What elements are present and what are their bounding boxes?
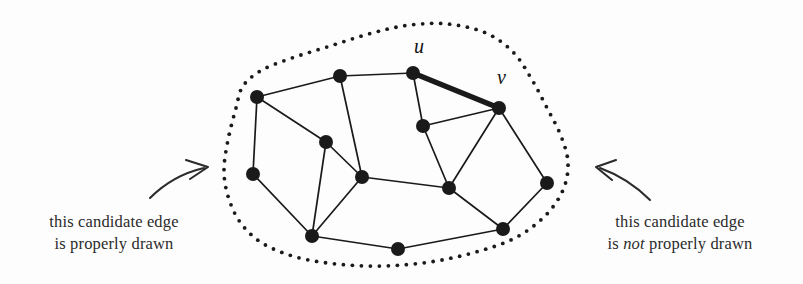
graph-edge	[340, 73, 413, 76]
graph-node	[492, 101, 506, 115]
boundary-dot	[222, 168, 226, 172]
boundary-dot	[465, 25, 469, 29]
boundary-dot	[560, 190, 564, 194]
boundary-dot	[505, 45, 509, 49]
boundary-dot	[297, 256, 301, 260]
boundary-dot	[527, 73, 531, 77]
boundary-dot	[540, 97, 544, 101]
boundary-dot	[525, 229, 529, 233]
boundary-dot	[342, 40, 346, 44]
boundary-dot	[565, 154, 569, 158]
boundary-dot	[394, 25, 398, 29]
caption-properly-drawn: this candidate edge is properly drawn	[16, 211, 212, 255]
boundary-dot	[350, 263, 354, 267]
boundary-dot	[229, 203, 233, 207]
boundary-dot	[474, 28, 478, 32]
boundary-dot	[264, 243, 268, 247]
boundary-dot	[299, 53, 303, 57]
graph-node	[391, 242, 405, 256]
boundary-dot	[475, 250, 479, 254]
boundary-dot	[226, 194, 230, 198]
graph-node	[246, 167, 260, 181]
boundary-dot	[224, 150, 228, 154]
graph-nodes-group	[246, 66, 554, 256]
graph-edge	[257, 76, 340, 97]
boundary-dot	[288, 253, 292, 257]
boundary-dot	[223, 177, 227, 181]
arrow-right-icon	[596, 160, 650, 200]
graph-edge-highlighted	[413, 73, 499, 108]
boundary-dot	[290, 56, 294, 60]
boundary-dot	[243, 81, 247, 85]
graph-node	[416, 119, 430, 133]
boundary-dot	[315, 260, 319, 264]
boundary-dot	[257, 70, 261, 74]
boundary-dot	[560, 137, 564, 141]
boundary-dot	[306, 258, 310, 262]
boundary-dot	[566, 163, 570, 167]
boundary-dot	[532, 224, 536, 228]
boundary-dot	[440, 258, 444, 262]
boundary-dot	[265, 65, 269, 69]
boundary-dot	[484, 247, 488, 251]
boundary-dot	[351, 37, 355, 41]
caption-left-line2: is properly drawn	[16, 233, 212, 255]
boundary-dot	[545, 212, 549, 216]
boundary-dot	[249, 233, 253, 237]
boundary-dot	[458, 254, 462, 258]
graph-node	[406, 66, 420, 80]
vertex-label-v: v	[497, 66, 506, 89]
boundary-dot	[237, 219, 241, 223]
caption-right-line2-emphasis: not	[623, 234, 645, 253]
boundary-dot	[564, 181, 568, 185]
boundary-dot	[376, 29, 380, 33]
boundary-dot	[368, 32, 372, 36]
caption-right-line2-pre: is	[608, 234, 619, 253]
graph-node	[442, 181, 456, 195]
boundary-dot	[226, 141, 230, 145]
boundary-dot	[448, 22, 452, 26]
boundary-dot	[272, 247, 276, 251]
boundary-dot	[539, 218, 543, 222]
boundary-dot	[282, 59, 286, 63]
boundary-dot	[431, 260, 435, 264]
boundary-dot	[536, 89, 540, 93]
caption-right-line2: is not properly drawn	[572, 233, 788, 255]
boundary-dot	[256, 238, 260, 242]
boundary-dot	[532, 81, 536, 85]
graph-edge	[449, 108, 499, 188]
boundary-dot	[563, 146, 567, 150]
boundary-dot	[250, 75, 254, 79]
boundary-dot	[308, 50, 312, 54]
graph-edge	[257, 97, 326, 142]
graph-edge	[326, 142, 362, 177]
boundary-dot	[280, 250, 284, 254]
boundary-dot	[229, 123, 233, 127]
boundary-dot	[413, 262, 417, 266]
boundary-dot	[342, 263, 346, 267]
boundary-dot	[466, 252, 470, 256]
graph-node	[319, 135, 333, 149]
boundary-dot	[483, 31, 487, 35]
boundary-dot	[239, 89, 243, 93]
boundary-dot	[236, 97, 240, 101]
boundary-dot	[518, 58, 522, 62]
boundary-dot	[324, 261, 328, 265]
graph-edge	[503, 183, 547, 229]
boundary-dot	[556, 197, 560, 201]
graph-edge	[413, 73, 423, 126]
boundary-dot	[227, 132, 231, 136]
boundary-dot	[403, 24, 407, 28]
boundary-dot	[557, 129, 561, 133]
boundary-dot	[430, 21, 434, 25]
graph-node	[250, 90, 264, 104]
boundary-dot	[325, 45, 329, 49]
boundary-dot	[232, 115, 236, 119]
graph-node	[540, 176, 554, 190]
boundary-dot	[421, 22, 425, 26]
boundary-dot	[492, 245, 496, 249]
graph-edge	[340, 76, 362, 177]
graph-edge	[362, 177, 449, 188]
boundary-dot	[509, 238, 513, 242]
boundary-dot	[422, 261, 426, 265]
